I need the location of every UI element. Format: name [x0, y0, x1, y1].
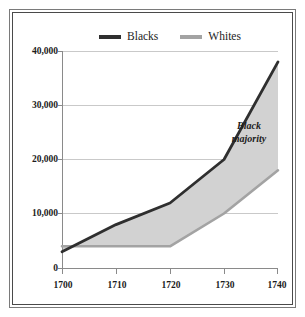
x-tick-label-1710: 1710: [108, 281, 127, 291]
annotation-line-2: majority: [222, 133, 276, 146]
annotation-black-majority: Black majority: [222, 120, 276, 145]
x-axis-labels: 1700 1710 1720 1730 1740: [0, 0, 305, 317]
x-tick-label-1700: 1700: [54, 281, 73, 291]
x-tick-label-1740: 1740: [268, 281, 287, 291]
chart-figure: Blacks Whites: [0, 0, 305, 317]
annotation-line-1: Black: [222, 120, 276, 133]
x-tick-label-1720: 1720: [162, 281, 181, 291]
x-tick-label-1730: 1730: [216, 281, 235, 291]
plot-stage: Blacks Whites: [0, 0, 305, 317]
